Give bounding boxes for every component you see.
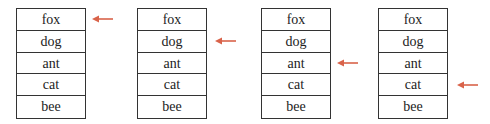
pointer-arrow-icon: [457, 80, 479, 90]
pointer-arrow-icon: [337, 58, 359, 68]
cell: dog: [17, 31, 85, 53]
cell: dog: [138, 31, 206, 53]
cell: bee: [138, 96, 206, 118]
cell: bee: [17, 96, 85, 118]
pointer-arrow-icon: [215, 36, 237, 46]
cell: fox: [138, 9, 206, 31]
cell: ant: [138, 53, 206, 75]
stack-2: fox dog ant cat bee: [137, 8, 207, 119]
cell: dog: [262, 31, 330, 53]
cell: cat: [17, 74, 85, 96]
cell: fox: [262, 9, 330, 31]
cell: ant: [262, 53, 330, 75]
stack-4: fox dog ant cat bee: [378, 8, 448, 119]
cell: cat: [138, 74, 206, 96]
cell: bee: [262, 96, 330, 118]
cell: ant: [379, 53, 447, 75]
cell: fox: [379, 9, 447, 31]
stack-1: fox dog ant cat bee: [16, 8, 86, 119]
stack-3: fox dog ant cat bee: [261, 8, 331, 119]
cell: ant: [17, 53, 85, 75]
cell: fox: [17, 9, 85, 31]
cell: cat: [379, 74, 447, 96]
cell: bee: [379, 96, 447, 118]
cell: dog: [379, 31, 447, 53]
cell: cat: [262, 74, 330, 96]
pointer-arrow-icon: [92, 14, 114, 24]
